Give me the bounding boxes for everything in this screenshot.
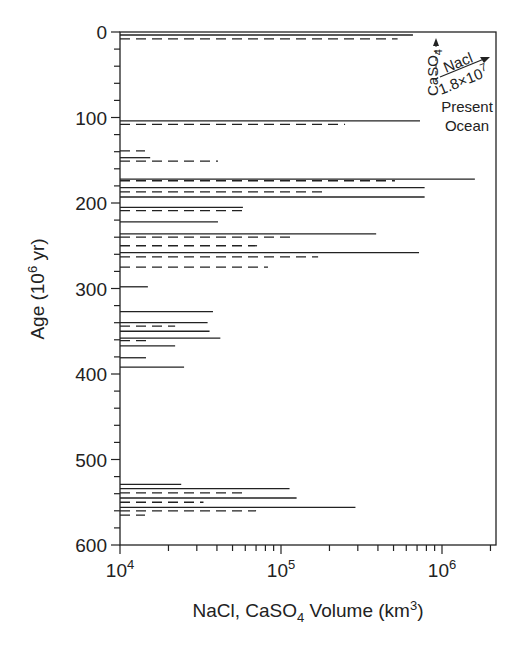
y-tick-label: 500	[75, 450, 107, 471]
x-tick-label: 104	[106, 557, 134, 581]
y-tick-label: 0	[96, 22, 107, 43]
ocean-label: Ocean	[445, 117, 489, 134]
x-axis: 104105106	[106, 545, 491, 581]
x-tick-label: 106	[428, 557, 456, 581]
y-axis-title: Age (106 yr)	[25, 238, 48, 339]
data-lines	[120, 35, 475, 515]
y-tick-label: 400	[75, 364, 107, 385]
y-tick-label: 100	[75, 108, 107, 129]
x-tick-label: 105	[267, 557, 295, 581]
y-tick-label: 600	[75, 535, 107, 556]
figure-caption-fragment	[0, 640, 517, 651]
x-axis-title: NaCl, CaSO4 Volume (km3)	[193, 598, 424, 625]
y-axis: 0100200300400500600	[75, 22, 120, 556]
present-label: Present	[441, 98, 494, 115]
y-tick-label: 200	[75, 193, 107, 214]
caso4-arrow-head-icon	[433, 38, 439, 46]
present-ocean-annotation: CaSO4 Nacl 1.8×107 Present Ocean	[424, 38, 494, 134]
evaporite-volume-chart: 0100200300400500600 104105106 Age (106 y…	[0, 0, 517, 651]
y-tick-label: 300	[75, 279, 107, 300]
plot-border	[120, 32, 496, 545]
plot-frame	[120, 32, 496, 545]
